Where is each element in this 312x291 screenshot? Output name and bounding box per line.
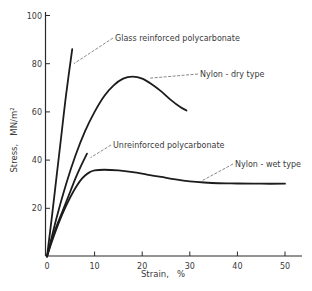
annotation-nylon-dry-type: Nylon - dry type (200, 70, 264, 79)
x-tick-label-40: 40 (232, 262, 242, 271)
x-tick-label-0: 0 (44, 262, 49, 271)
y-tick-label-60: 60 (32, 108, 42, 117)
annotation-glass-reinforced-polycarbonate: Glass reinforced polycarbonate (115, 34, 240, 43)
annotation-nylon-wet-type: Nylon - wet type (235, 160, 301, 169)
leader-unreinforced-polycarbonate (90, 145, 111, 158)
x-tick-label-10: 10 (90, 262, 100, 271)
leader-glass-reinforced-polycarbonate (74, 38, 113, 64)
leader-nylon-wet-type (202, 164, 233, 181)
annotation-leaders (74, 38, 233, 181)
leader-nylon-dry-type (150, 74, 198, 78)
y-tick-label-80: 80 (32, 60, 42, 69)
x-tick-label-30: 30 (185, 262, 195, 271)
y-tick-label-40: 40 (32, 156, 42, 165)
y-tick-label-100: 100 (27, 12, 42, 21)
stress-strain-chart: 0102030405020406080100 Glass reinforced … (0, 0, 312, 291)
curve-nylon-wet-type (47, 170, 285, 257)
x-axis-title: Strain, % (141, 269, 185, 279)
curves (47, 49, 285, 256)
curve-glass-reinforced-polycarbonate (47, 49, 72, 256)
y-tick-label-20: 20 (32, 204, 42, 213)
annotations: Glass reinforced polycarbonateNylon - dr… (113, 34, 301, 169)
annotation-unreinforced-polycarbonate: Unreinforced polycarbonate (113, 141, 225, 150)
x-tick-label-50: 50 (280, 262, 290, 271)
y-axis-title: Stress, MN/m² (9, 107, 19, 172)
curve-nylon-dry-type (47, 77, 186, 257)
